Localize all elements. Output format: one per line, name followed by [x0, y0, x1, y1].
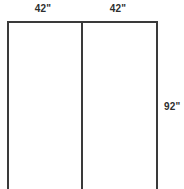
panel-outline-svg — [0, 0, 184, 189]
panel-diagram: 42" 42" 92" — [0, 0, 184, 189]
